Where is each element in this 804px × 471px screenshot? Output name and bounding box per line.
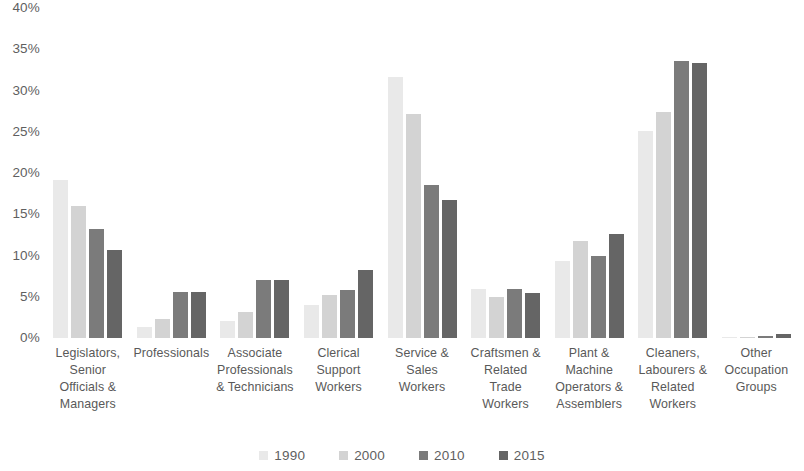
x-axis-label-line: Clerical [299,345,379,362]
y-axis-tick-label: 10% [0,249,40,263]
x-axis-label-line: Cleaners, [633,345,713,362]
legend-swatch-icon [499,451,508,460]
x-axis-label-line: Operators & [549,379,629,396]
y-axis-tick-label: 20% [0,166,40,180]
y-axis-tick-label: 5% [0,290,40,304]
bar-1990[interactable] [304,305,319,338]
x-axis-labels: Legislators,SeniorOfficials &ManagersPro… [46,345,798,435]
bar-2000[interactable] [71,206,86,338]
bar-1990[interactable] [137,327,152,338]
x-axis-label-line: Related [633,379,713,396]
legend-label: 1990 [274,448,305,463]
bar-2010[interactable] [674,61,689,338]
x-axis-label-line: Craftsmen & [466,345,546,362]
bar-group [631,8,715,338]
x-axis-label-line: Occupation [717,362,797,379]
bar-2015[interactable] [107,250,122,338]
x-axis-label-line: Workers [382,379,462,396]
y-axis-tick-label: 35% [0,42,40,56]
bar-groups [46,8,798,338]
bar-2000[interactable] [322,295,337,338]
x-axis-label-line: Legislators, [48,345,128,362]
legend-swatch-icon [259,451,268,460]
bar-2010[interactable] [424,185,439,338]
bar-2000[interactable] [238,312,253,338]
legend-swatch-icon [339,451,348,460]
x-axis-category-label: Craftsmen &RelatedTradeWorkers [464,345,548,435]
x-axis-label-line: Plant & [549,345,629,362]
x-axis-label-line: Professionals [215,362,295,379]
bar-2015[interactable] [776,334,791,338]
legend-label: 2015 [514,448,545,463]
x-axis-category-label: OtherOccupationGroups [715,345,799,435]
legend-item-2015[interactable]: 2015 [499,448,545,463]
legend-item-2000[interactable]: 2000 [339,448,385,463]
x-axis-label-line: Assemblers [549,396,629,413]
bar-2010[interactable] [591,256,606,338]
bar-1990[interactable] [722,337,737,338]
bar-group [464,8,548,338]
bar-2015[interactable] [692,63,707,338]
x-axis-label-line: Machine [549,362,629,379]
bar-2000[interactable] [155,319,170,338]
x-axis-label-line: Sales [382,362,462,379]
x-axis-label-line: Groups [717,379,797,396]
bar-2015[interactable] [609,234,624,338]
bar-1990[interactable] [388,77,403,338]
bar-group [46,8,130,338]
x-axis-label-line: Workers [466,396,546,413]
bar-group [213,8,297,338]
bar-1990[interactable] [53,180,68,338]
bar-2010[interactable] [89,229,104,338]
bar-2010[interactable] [507,289,522,339]
bar-2015[interactable] [274,280,289,338]
x-axis-label-line: & Technicians [215,379,295,396]
y-axis-tick-label: 30% [0,84,40,98]
bar-2010[interactable] [340,290,355,338]
legend-item-1990[interactable]: 1990 [259,448,305,463]
bar-2000[interactable] [406,114,421,338]
bar-2000[interactable] [740,337,755,338]
x-axis-label-line: Senior [48,362,128,379]
legend-item-2010[interactable]: 2010 [419,448,465,463]
y-axis-tick-label: 25% [0,125,40,139]
bar-2015[interactable] [191,292,206,338]
bar-group [380,8,464,338]
bar-2010[interactable] [758,336,773,338]
x-axis-category-label: Professionals [130,345,214,435]
bar-1990[interactable] [471,289,486,339]
bar-1990[interactable] [638,131,653,338]
x-axis-category-label: AssociateProfessionals& Technicians [213,345,297,435]
x-axis-label-line: Workers [633,396,713,413]
x-axis-category-label: Service &SalesWorkers [380,345,464,435]
y-axis-tick-label: 15% [0,207,40,221]
legend-label: 2000 [354,448,385,463]
x-axis-label-line: Support [299,362,379,379]
bar-1990[interactable] [220,321,235,338]
x-axis-label-line: Associate [215,345,295,362]
bar-2015[interactable] [525,293,540,338]
bar-group [297,8,381,338]
bar-2010[interactable] [256,280,271,338]
x-axis-label-line: Service & [382,345,462,362]
x-axis-label-line: Labourers & [633,362,713,379]
x-axis-label-line: Professionals [132,345,212,362]
bar-2010[interactable] [173,292,188,338]
x-axis-label-line: Other [717,345,797,362]
bar-2000[interactable] [489,297,504,338]
bar-2000[interactable] [656,112,671,338]
bar-2015[interactable] [358,270,373,338]
x-axis-category-label: Legislators,SeniorOfficials &Managers [46,345,130,435]
bar-2000[interactable] [573,241,588,338]
plot-area [46,8,798,338]
bar-group [130,8,214,338]
bar-2015[interactable] [442,200,457,338]
chart-legend: 1990200020102015 [0,444,804,466]
bar-1990[interactable] [555,261,570,338]
x-axis-label-line: Managers [48,396,128,413]
x-axis-category-label: Plant &MachineOperators &Assemblers [547,345,631,435]
x-axis-label-line: Officials & [48,379,128,396]
legend-label: 2010 [434,448,465,463]
x-axis-label-line: Trade [466,379,546,396]
bar-chart: 0%5%10%15%20%25%30%35%40% Legislators,Se… [0,0,804,471]
